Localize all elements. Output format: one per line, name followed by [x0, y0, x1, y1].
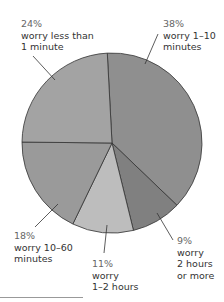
- leader-9: [157, 213, 173, 240]
- label-24-percent: 24% worry less than 1 minute: [21, 18, 94, 53]
- bottom-rule: [0, 297, 83, 298]
- leader-24: [33, 56, 55, 80]
- leader-18: [35, 204, 58, 227]
- label-38-percent: 38% worry 1–10 minutes: [163, 18, 216, 53]
- pie-slice-24-percent: [22, 53, 112, 143]
- label-18-percent: 18% worry 10–60 minutes: [14, 230, 73, 265]
- label-11-percent: 11% worry 1–2 hours: [92, 258, 139, 293]
- label-9-percent: 9% worry 2 hours or more: [177, 235, 214, 281]
- leader-38: [145, 34, 158, 64]
